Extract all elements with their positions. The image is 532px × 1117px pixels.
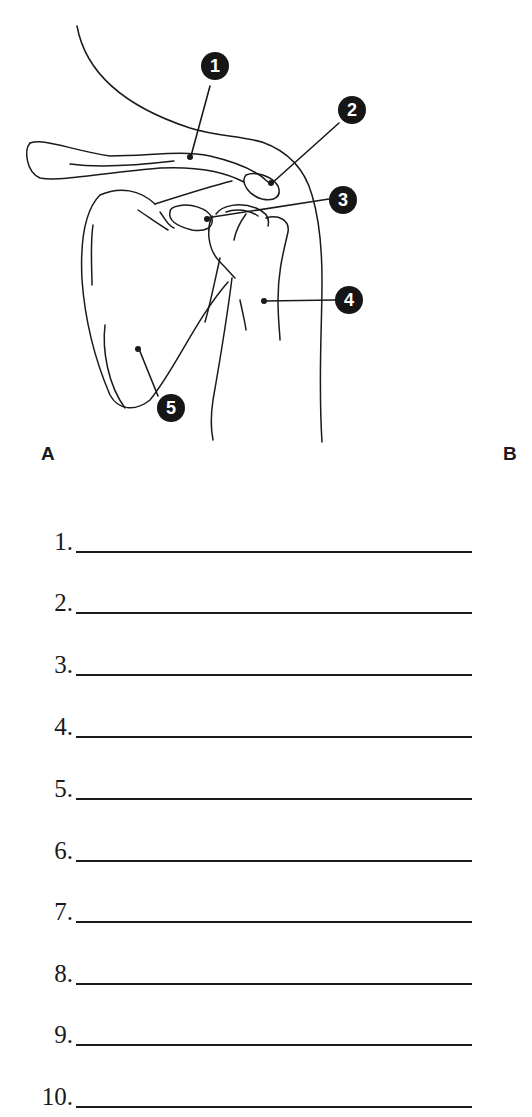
answer-blank-line[interactable] bbox=[76, 921, 472, 923]
answer-row-4[interactable]: 4. bbox=[0, 702, 532, 742]
shoulder-bones-illustration bbox=[0, 0, 532, 480]
answer-blank-line[interactable] bbox=[76, 736, 472, 738]
answer-row-8[interactable]: 8. bbox=[0, 949, 532, 989]
answer-row-3[interactable]: 3. bbox=[0, 640, 532, 680]
answer-blank-line[interactable] bbox=[76, 1044, 472, 1046]
callout-marker-5: 5 bbox=[157, 394, 185, 422]
answer-number: 10. bbox=[42, 1082, 73, 1112]
answer-row-5[interactable]: 5. bbox=[0, 764, 532, 804]
shoulder-anatomy-figure: 1 2 3 4 5 A B bbox=[0, 0, 532, 480]
answer-blank-line[interactable] bbox=[76, 674, 472, 676]
answer-number: 5. bbox=[54, 774, 73, 804]
answer-number: 6. bbox=[54, 836, 73, 866]
answer-row-10[interactable]: 10. bbox=[0, 1072, 532, 1112]
answer-blank-line[interactable] bbox=[76, 860, 472, 862]
answer-number: 4. bbox=[54, 712, 73, 742]
callout-marker-1: 1 bbox=[201, 52, 229, 80]
answer-row-2[interactable]: 2. bbox=[0, 578, 532, 618]
answer-number: 9. bbox=[54, 1020, 73, 1050]
answer-blank-line[interactable] bbox=[76, 1106, 472, 1108]
answer-row-1[interactable]: 1. bbox=[0, 517, 532, 557]
answer-blank-line[interactable] bbox=[76, 983, 472, 985]
answer-blank-line[interactable] bbox=[76, 612, 472, 614]
answer-number: 7. bbox=[54, 897, 73, 927]
callout-marker-2: 2 bbox=[338, 96, 366, 124]
callout-marker-3: 3 bbox=[329, 186, 357, 214]
answer-number: 3. bbox=[54, 650, 73, 680]
answer-number: 2. bbox=[54, 588, 73, 618]
panel-label-b: B bbox=[503, 443, 517, 465]
answer-row-6[interactable]: 6. bbox=[0, 826, 532, 866]
answer-row-7[interactable]: 7. bbox=[0, 887, 532, 927]
answer-blank-line[interactable] bbox=[76, 551, 472, 553]
answer-blank-line[interactable] bbox=[76, 798, 472, 800]
panel-label-a: A bbox=[41, 443, 55, 465]
answer-number: 8. bbox=[54, 959, 73, 989]
answer-row-9[interactable]: 9. bbox=[0, 1010, 532, 1050]
callout-marker-4: 4 bbox=[335, 286, 363, 314]
answer-number: 1. bbox=[54, 527, 73, 557]
